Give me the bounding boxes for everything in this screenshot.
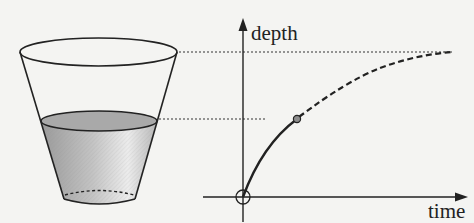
depth-curve-solid <box>243 119 297 197</box>
depth-time-diagram: depth time <box>0 0 474 223</box>
cup-rim <box>20 38 177 66</box>
liquid-surface <box>41 111 157 131</box>
x-axis-label: time <box>428 199 465 223</box>
cup <box>20 38 177 204</box>
y-axis-arrow-icon <box>239 18 248 31</box>
y-axis-label: depth <box>251 21 298 45</box>
depth-curve-dashed <box>299 52 452 117</box>
current-depth-point <box>293 115 300 122</box>
axes <box>203 18 468 222</box>
